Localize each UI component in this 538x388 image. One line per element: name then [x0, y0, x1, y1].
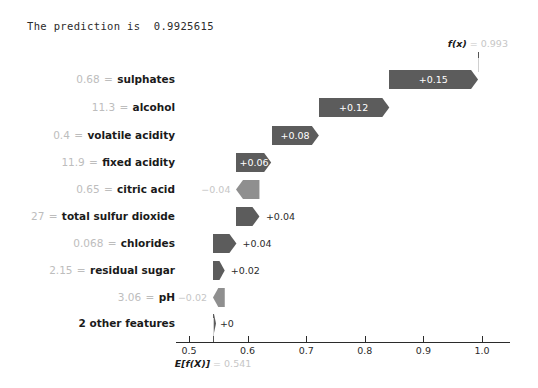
- output-value-number: 0.993: [481, 38, 508, 49]
- bar-arrow-shape: [213, 288, 225, 307]
- feature-label-alcohol: 11.3 = alcohol: [92, 102, 175, 113]
- x-axis-line: [176, 342, 510, 343]
- feature-name: 2 other features: [79, 317, 175, 329]
- feature-value: 2.15: [49, 264, 72, 276]
- feature-value: 0.65: [76, 183, 99, 195]
- x-axis-tick: [248, 336, 249, 342]
- feature-name: fixed acidity: [102, 156, 175, 168]
- page-title: The prediction is 0.9925615: [27, 20, 214, 32]
- feature-label-total-sulfur-dioxide: 27 = total sulfur dioxide: [31, 211, 175, 222]
- bar-arrow-shape: [272, 126, 319, 145]
- waterfall-bar-sulphates: [389, 70, 478, 89]
- bar-value-label: −0.02: [178, 288, 207, 307]
- feature-value: 11.9: [61, 156, 84, 168]
- bar-arrow-shape: [389, 70, 478, 89]
- x-axis-tick: [306, 336, 307, 342]
- x-axis-tick-label: 1.0: [474, 345, 489, 356]
- equals-sign: =: [103, 237, 120, 249]
- output-value-equals: =: [467, 38, 481, 49]
- equals-sign: =: [70, 129, 87, 141]
- bar-value-label: +0.04: [266, 207, 295, 226]
- feature-name: sulphates: [117, 73, 175, 85]
- x-axis-tick: [189, 336, 190, 342]
- base-value-number: 0.541: [224, 358, 251, 369]
- waterfall-bar-pH: [213, 288, 225, 307]
- base-value-equals: =: [210, 358, 224, 369]
- x-axis-tick-label: 0.5: [181, 345, 196, 356]
- x-axis-tick-label: 0.9: [416, 345, 431, 356]
- feature-name: total sulfur dioxide: [62, 210, 175, 222]
- feature-name: pH: [159, 291, 175, 303]
- feature-value: 0.68: [76, 73, 99, 85]
- feature-label-residual-sugar: 2.15 = residual sugar: [49, 265, 175, 276]
- feature-label-fixed-acidity: 11.9 = fixed acidity: [61, 157, 175, 168]
- x-axis-tick: [365, 336, 366, 342]
- bar-value-label: −0.04: [201, 180, 230, 199]
- feature-value: 11.3: [92, 101, 115, 113]
- waterfall-bar-citric-acid: [236, 180, 259, 199]
- base-value-annotation: E[f(X)] = 0.541: [175, 358, 252, 369]
- feature-value: 27: [31, 210, 44, 222]
- feature-name: residual sugar: [90, 264, 175, 276]
- output-value-symbol: f(x): [448, 38, 467, 49]
- waterfall-bar-fixed-acidity: [236, 153, 271, 172]
- x-axis-tick: [482, 336, 483, 342]
- shap-waterfall-plot: The prediction is 0.9925615 0.68 = sulph…: [0, 0, 538, 388]
- feature-label-pH: 3.06 = pH: [118, 292, 175, 303]
- feature-name: volatile acidity: [87, 129, 175, 141]
- equals-sign: =: [115, 101, 132, 113]
- base-value-symbol: E[f(X)]: [175, 358, 210, 369]
- bar-value-label: +0.02: [231, 261, 260, 280]
- feature-name: alcohol: [133, 101, 175, 113]
- x-axis-tick: [423, 336, 424, 342]
- feature-label-sulphates: 0.68 = sulphates: [76, 74, 175, 85]
- waterfall-bar-chlorides: [213, 234, 236, 253]
- feature-name: chlorides: [121, 237, 175, 249]
- bar-arrow-shape: [236, 180, 259, 199]
- bar-arrow-shape: [213, 234, 236, 253]
- waterfall-bar-volatile-acidity: [272, 126, 319, 145]
- output-value-annotation: f(x) = 0.993: [448, 38, 508, 49]
- bar-value-label: +0: [220, 314, 234, 333]
- waterfall-bar-alcohol: [319, 98, 389, 117]
- equals-sign: =: [44, 210, 61, 222]
- equals-sign: =: [141, 291, 158, 303]
- bar-value-label: +0.04: [242, 234, 271, 253]
- bar-arrow-shape: [319, 98, 389, 117]
- x-axis-tick-label: 0.7: [299, 345, 314, 356]
- feature-label-chlorides: 0.068 = chlorides: [73, 238, 175, 249]
- feature-name: citric acid: [117, 183, 175, 195]
- waterfall-bar-residual-sugar: [213, 261, 225, 280]
- feature-value: 0.068: [73, 237, 103, 249]
- equals-sign: =: [100, 73, 117, 85]
- output-value-tick: [478, 52, 479, 58]
- bar-arrow-shape: [236, 207, 259, 226]
- x-axis-tick-label: 0.8: [357, 345, 372, 356]
- equals-sign: =: [73, 264, 90, 276]
- waterfall-bar-total-sulfur-dioxide: [236, 207, 259, 226]
- equals-sign: =: [85, 156, 102, 168]
- feature-value: 3.06: [118, 291, 141, 303]
- equals-sign: =: [100, 183, 117, 195]
- feature-value: 0.4: [53, 129, 70, 141]
- bar-arrow-shape: [213, 261, 225, 280]
- feature-label-2-other-features: 2 other features: [79, 318, 175, 329]
- feature-label-citric-acid: 0.65 = citric acid: [76, 184, 175, 195]
- base-value-tick: [213, 336, 214, 342]
- x-axis-tick-label: 0.6: [240, 345, 255, 356]
- feature-label-volatile-acidity: 0.4 = volatile acidity: [53, 130, 175, 141]
- output-value-line: [478, 58, 479, 72]
- bar-arrow-shape: [236, 153, 271, 172]
